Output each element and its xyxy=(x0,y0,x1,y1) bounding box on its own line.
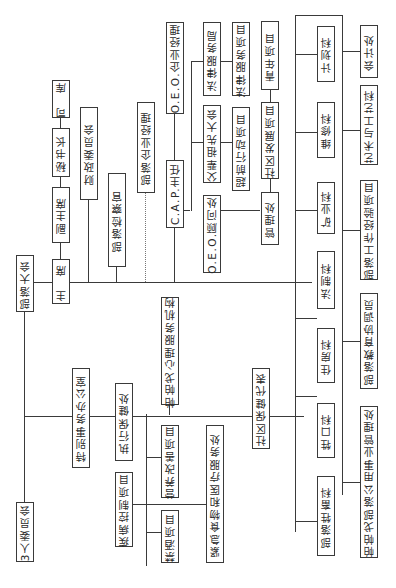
connector xyxy=(60,177,61,187)
node-community-development-project: 社区发展项目 xyxy=(261,102,279,179)
connector xyxy=(220,210,260,211)
connector xyxy=(191,142,203,143)
connector xyxy=(174,228,175,282)
connector xyxy=(342,230,360,231)
connector xyxy=(60,243,61,259)
node-secretary-general: 秘书长 xyxy=(52,128,70,177)
connector xyxy=(295,132,317,133)
node-vice-chairman: 副主席 xyxy=(52,187,70,243)
connector xyxy=(270,179,271,192)
dotted-connector xyxy=(145,193,146,282)
connector xyxy=(295,15,342,16)
connector xyxy=(191,61,203,62)
node-tribal-education-coordinator: 部落教育协调员 xyxy=(360,293,378,389)
connector xyxy=(295,54,317,55)
connector xyxy=(70,282,312,283)
connector xyxy=(270,90,271,102)
connector xyxy=(295,15,296,532)
connector xyxy=(342,15,343,495)
node-legal-section: 法制科 xyxy=(317,251,335,309)
connector xyxy=(220,61,232,62)
node-housing-section: 住房科 xyxy=(317,328,335,383)
connector xyxy=(295,210,317,211)
connector xyxy=(342,51,360,52)
node-nutrition-project: 营养改善项目 xyxy=(161,425,179,498)
node-legal-services-bureau: 法律服务局 xyxy=(203,22,221,96)
connector xyxy=(220,142,232,143)
node-executive-health-office: 执行保健处 xyxy=(115,383,133,461)
connector xyxy=(116,267,117,282)
connector xyxy=(191,61,192,211)
node-tribal-livestock-section: 部落牲畜科 xyxy=(317,476,335,556)
node-tribal-assembly: 部落大会 xyxy=(16,255,34,312)
node-legal-services-project: 法律服务项目 xyxy=(232,22,250,96)
node-papago-utility-authority: 帕帕戈部落公用事业管理处 xyxy=(360,406,378,558)
connector xyxy=(342,341,360,342)
node-maintenance-section: 维修科 xyxy=(317,102,335,158)
node-oeo-enterprise-manager: O.E.O.企业经理 xyxy=(166,22,184,114)
node-management-office: 管理处 xyxy=(261,192,279,245)
node-papago-mental-health: 帕帕戈心理服务机构 xyxy=(161,297,179,405)
node-alcohol-project: 禁酒项目 xyxy=(161,510,179,563)
connector xyxy=(60,118,61,128)
node-mining-section: 矿业科 xyxy=(317,182,335,234)
node-head-start-project: 超前行动项目 xyxy=(232,107,250,191)
node-planning-section: 计划科 xyxy=(317,26,335,82)
node-emergency-food-medical: 紧急食物和医疗服务处 xyxy=(206,425,224,563)
connector xyxy=(295,521,317,522)
connector xyxy=(295,318,317,319)
node-disease-control-project: 疾病控制项目 xyxy=(115,472,133,547)
node-tribal-work-experience-project: 部落工作经验项目 xyxy=(360,180,378,280)
node-tribal-prosecutor: 部落检察官 xyxy=(108,173,126,267)
connector xyxy=(146,414,147,566)
node-three-person-committee: 3人委员会 xyxy=(16,502,34,562)
node-tribal-enterprise-manager: 部落企业经理 xyxy=(137,102,155,193)
connector xyxy=(88,200,89,282)
node-livestock-section: 牲口科 xyxy=(317,403,335,458)
node-youth-project: 青年项目 xyxy=(261,21,279,90)
node-oeo-advisor: O.E.O.顾问处 xyxy=(203,195,221,273)
node-parents-ancestors-assembly: 父辈祖先大会 xyxy=(203,105,221,183)
node-finance-committee: 财政委员会 xyxy=(80,107,98,200)
node-accounting-office: 会计处 xyxy=(360,25,378,78)
node-community-health-rep: 社区保健代表 xyxy=(252,368,270,449)
node-treasurer: 司 库 xyxy=(52,80,70,118)
connector xyxy=(342,130,360,131)
connector xyxy=(132,504,208,505)
connector xyxy=(295,396,317,397)
node-chairman: 主 席 xyxy=(52,259,70,304)
node-arts-crafts-section: 艺术与工艺科 xyxy=(360,85,378,165)
connector xyxy=(342,482,360,483)
node-cap-director: C.A.P.主任 xyxy=(166,160,184,228)
node-special-affairs-office: 特别事务办公室 xyxy=(72,368,90,468)
